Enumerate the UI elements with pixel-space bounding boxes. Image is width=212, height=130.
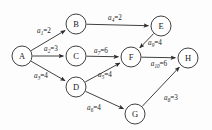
edge-label-a2: a2=3	[44, 45, 58, 54]
node-a[interactable]: A	[12, 46, 32, 66]
node-label-d: D	[73, 82, 79, 92]
edge-label-a6: a6=4	[87, 104, 101, 113]
node-label-b: B	[73, 19, 79, 29]
graph-canvas: ABCDEFGH a1=2a2=3a3=4a4=2a9=4a7=6a5=4a6=…	[0, 0, 212, 130]
node-label-c: C	[73, 51, 79, 61]
edge-label-a9: a9=4	[148, 39, 162, 48]
edge-label-a1: a1=2	[37, 27, 51, 36]
network-diagram: ABCDEFGH a1=2a2=3a3=4a4=2a9=4a7=6a5=4a6=…	[0, 0, 212, 130]
node-c[interactable]: C	[66, 46, 86, 66]
node-label-a: A	[19, 51, 26, 61]
node-d[interactable]: D	[66, 77, 86, 97]
node-e[interactable]: E	[151, 16, 171, 36]
node-b[interactable]: B	[66, 14, 86, 34]
node-label-f: F	[129, 52, 134, 62]
node-g[interactable]: G	[125, 104, 145, 124]
node-label-e: E	[158, 21, 163, 31]
edge-label-a3: a3=4	[34, 72, 48, 81]
node-label-g: G	[132, 109, 138, 119]
edge-label-a7: a7=6	[94, 47, 108, 56]
node-f[interactable]: F	[121, 47, 141, 67]
node-label-h: H	[185, 53, 191, 63]
edge-c-to-f	[86, 56, 118, 57]
edge-f-to-h	[141, 57, 175, 58]
edge-label-a10: a10=6	[151, 60, 168, 69]
node-h[interactable]: H	[178, 48, 198, 68]
edge-label-a4: a4=2	[108, 14, 122, 23]
edge-b-to-e	[86, 24, 148, 25]
edge-label-a5: a5=4	[98, 71, 112, 80]
edge-label-a8: a8=3	[164, 94, 178, 103]
